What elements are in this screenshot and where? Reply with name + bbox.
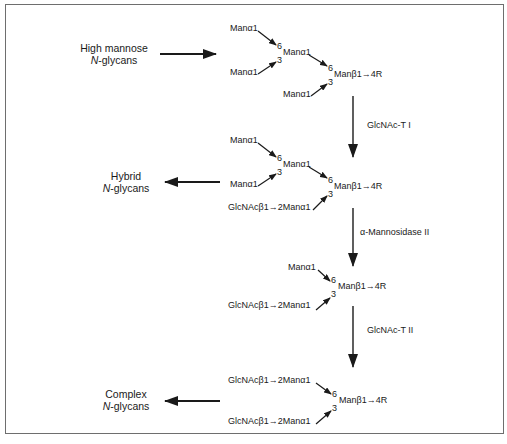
residue-man: Manα1: [230, 23, 258, 33]
enzyme-glcnac-t-ii: GlcNAc-T II: [367, 325, 413, 335]
label-complex: Complex N-glycans: [96, 388, 156, 412]
linkage-6: 6: [332, 389, 337, 399]
core-residue: Manβ1→4R: [334, 69, 382, 79]
high-mannose-line1: High mannose: [72, 42, 156, 54]
linkage-6: 6: [331, 275, 336, 285]
glycans-text: -glycans: [98, 54, 137, 66]
hybrid-line1: Hybrid: [96, 170, 156, 182]
residue-glcnac-arm: GlcNAcβ1→2Manα1: [228, 300, 310, 310]
enzyme-glcnac-t-i: GlcNAc-T I: [367, 120, 411, 130]
residue-man-branch: Manα1: [283, 47, 311, 57]
linkage-3: 3: [328, 189, 333, 199]
linkage-6: 6: [328, 175, 333, 185]
linkage-3: 3: [277, 167, 282, 177]
residue-man: Manα1: [283, 89, 311, 99]
glycans-text: -glycans: [110, 400, 149, 412]
residue-man: Manα1: [230, 135, 258, 145]
residue-man: Manα1: [230, 67, 258, 77]
high-mannose-line2: N-glycans: [72, 54, 156, 66]
label-high-mannose: High mannose N-glycans: [72, 42, 156, 66]
hybrid-line2: N-glycans: [96, 182, 156, 194]
core-residue: Manβ1→4R: [334, 181, 382, 191]
linkage-6: 6: [277, 153, 282, 163]
linkage-3: 3: [277, 55, 282, 65]
complex-line2: N-glycans: [96, 400, 156, 412]
residue-man: Manα1: [288, 262, 316, 272]
complex-line1: Complex: [96, 388, 156, 400]
residue-man: Manα1: [230, 179, 258, 189]
residue-glcnac-arm-3: GlcNAcβ1→2Manα1: [228, 416, 310, 426]
core-residue: Manβ1→4R: [339, 395, 387, 405]
linkage-3: 3: [328, 77, 333, 87]
linkage-3: 3: [331, 289, 336, 299]
linkage-6: 6: [328, 63, 333, 73]
residue-glcnac-arm: GlcNAcβ1→2Manα1: [228, 202, 310, 212]
residue-man-branch: Manα1: [283, 159, 311, 169]
linkage-6: 6: [277, 41, 282, 51]
residue-glcnac-arm-6: GlcNAcβ1→2Manα1: [228, 375, 310, 385]
label-hybrid: Hybrid N-glycans: [96, 170, 156, 194]
enzyme-alpha-mannosidase-ii: α-Mannosidase II: [360, 227, 429, 237]
core-residue: Manβ1→4R: [338, 281, 386, 291]
linkage-3: 3: [332, 403, 337, 413]
glycans-text: -glycans: [110, 182, 149, 194]
